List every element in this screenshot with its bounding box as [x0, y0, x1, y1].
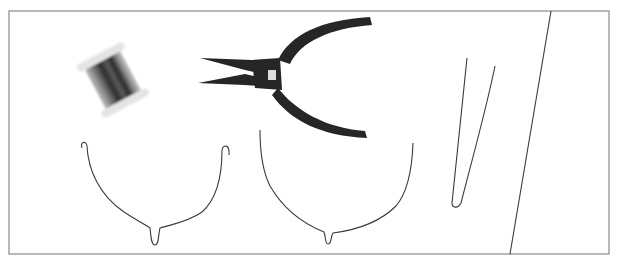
frame	[9, 11, 609, 254]
illustration-canvas	[0, 0, 619, 266]
